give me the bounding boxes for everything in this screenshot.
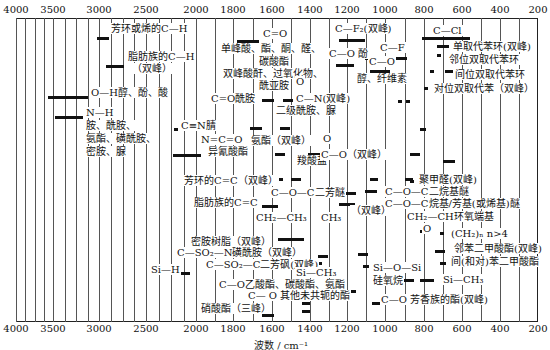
axis-tick-label: 600 (452, 4, 471, 15)
axis-tick-label: 2000 (183, 4, 208, 15)
absorption-band-bar (55, 116, 83, 119)
axis-tick-label: 1800 (220, 4, 245, 15)
band-label: 邻苯二甲酸酯(双峰) (453, 243, 543, 254)
gridline (424, 18, 425, 322)
axis-tick-label: 2500 (133, 4, 158, 15)
band-label: N=C=O (200, 134, 243, 145)
band-label: 醇、纤维素 (356, 73, 408, 84)
band-label: O (322, 133, 332, 144)
axis-tick-label: 3500 (40, 4, 65, 15)
band-label: Si—CH₃ (295, 267, 337, 278)
band-label: 硅氧烷 (372, 275, 404, 286)
absorption-band-bar (291, 178, 301, 181)
absorption-band-bar (443, 160, 455, 163)
band-label: CH₂—CH₃ (255, 212, 308, 223)
axis-tick-label: 1200 (334, 323, 359, 334)
absorption-band-bar (262, 99, 274, 102)
band-label: 芳环的C=C（双峰） (183, 175, 279, 186)
absorption-band-bar (370, 178, 378, 181)
band-label: C≡N腈 (180, 120, 217, 131)
absorption-band-bar (280, 127, 290, 130)
absorption-band-bar (262, 205, 278, 208)
band-label: 双峰酸酐、过氧化物、 (222, 68, 324, 79)
band-label: 单峰酸、酯、酮、醛、 (220, 43, 322, 54)
band-label: 异氰酸酯 (207, 146, 249, 157)
absorption-band-bar (336, 64, 354, 67)
axis-tick-label: 4000 (3, 323, 28, 334)
absorption-band-bar (424, 87, 428, 90)
absorption-band-bar (173, 154, 201, 157)
band-label: N—H (85, 107, 114, 118)
axis-tick-label: 1000 (372, 323, 397, 334)
absorption-band-bar (445, 70, 453, 73)
band-label: C—O乙酸酯、碳酸酯、氨酯 (218, 279, 346, 290)
band-label: Si—CH₃ (442, 274, 484, 285)
band-label: 氨酯、磺酰胺、 (85, 133, 157, 144)
axis-tick-label: 2000 (183, 323, 208, 334)
absorption-band-bar (440, 262, 446, 265)
band-label: O—H醇、酚、酸 (90, 87, 169, 98)
band-label: 胺、酰胺、 (85, 120, 137, 131)
axis-tick-label: 1400 (297, 4, 322, 15)
gridline (88, 18, 89, 322)
axis-tick-label: 3500 (40, 323, 65, 334)
absorption-band-bar (410, 180, 414, 183)
axis-tick-label: 2500 (133, 323, 158, 334)
absorption-band-bar (422, 37, 470, 40)
absorption-band-bar (437, 54, 441, 57)
gridline (291, 18, 292, 322)
absorption-band-bar (420, 279, 434, 282)
absorption-band-bar (372, 302, 380, 305)
absorption-band-bar (365, 190, 377, 193)
axis-tick-label: 200 (528, 4, 547, 15)
band-label: C—Cl (432, 25, 463, 36)
x-axis-label: 波数 / cm⁻¹ (254, 337, 308, 350)
absorption-band-bar (250, 127, 262, 130)
axis-tick-label: 3000 (86, 4, 111, 15)
absorption-band-bar (406, 100, 410, 103)
absorption-band-bar (283, 99, 293, 102)
absorption-band-bar (97, 37, 109, 40)
absorption-band-bar (278, 238, 304, 241)
axis-tick-label: 1800 (220, 323, 245, 334)
gridline (53, 18, 54, 322)
axis-tick-label: 1600 (259, 323, 284, 334)
gridline (123, 18, 124, 322)
absorption-band-bar (437, 45, 449, 48)
band-label: C—O—C烷基/芳基(或烯基)醚 (384, 198, 521, 209)
band-label: 密胺、脲 (85, 146, 127, 157)
band-label: 脂肪族的C=C (193, 197, 259, 208)
axis-tick-label: 1200 (334, 4, 359, 15)
axis-tick-label: 800 (414, 4, 433, 15)
band-label: C—O—C二芳醚 (270, 187, 346, 198)
gridline (184, 18, 185, 322)
band-label: C— O 其他未共轭的酯 (247, 290, 351, 301)
gridline (25, 18, 26, 322)
band-label: 邻位双取代苯环 (448, 54, 520, 65)
gridline (44, 18, 45, 322)
band-label: C—N(双峰) (295, 93, 351, 104)
absorption-band-bar (275, 153, 285, 156)
band-label: 间(和对)苯二甲酸酯 (450, 256, 540, 267)
band-label: C=O (262, 28, 288, 39)
band-label: C—F₂(双峰) (334, 23, 392, 34)
band-label: CH₃ (320, 212, 342, 223)
band-label: (CH₂)ₙ n>4 (450, 228, 509, 239)
gridline (16, 18, 17, 322)
gridline (65, 18, 66, 322)
gridline (215, 18, 216, 322)
band-label: C—O (368, 56, 396, 67)
absorption-band-bar (48, 96, 88, 99)
absorption-band-bar (430, 70, 434, 73)
band-label: O (295, 76, 305, 87)
band-label: 密胺树脂（双峰） (190, 236, 272, 247)
absorption-band-bar (262, 314, 274, 317)
axis-tick-label: 200 (528, 323, 547, 334)
axis-tick-label: 800 (414, 323, 433, 334)
gridline (111, 18, 112, 322)
axis-tick-label: 1400 (297, 323, 322, 334)
gridline (366, 18, 367, 322)
absorption-band-bar (339, 39, 365, 42)
axis-tick-label: 1600 (259, 4, 284, 15)
band-label: （双峰） (131, 63, 173, 74)
